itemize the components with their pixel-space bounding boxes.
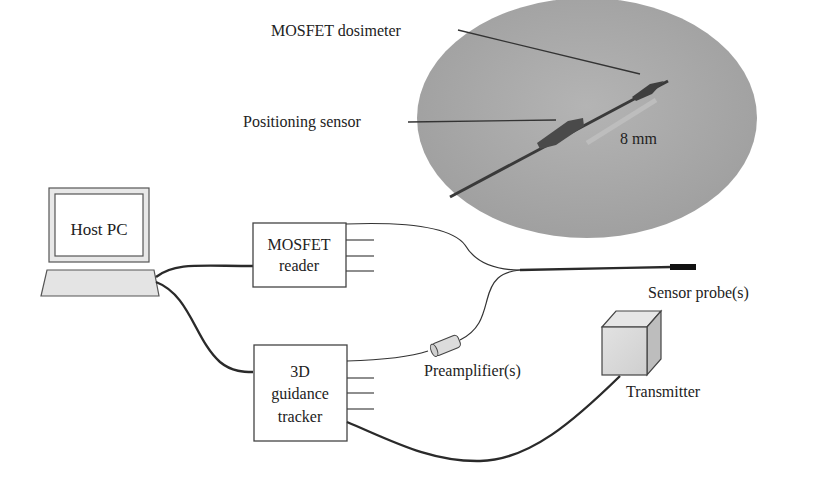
system-diagram: 8 mm MOSFET dosimeter Positioning sensor… bbox=[0, 0, 819, 482]
positioning-sensor-label: Positioning sensor bbox=[243, 113, 361, 131]
photo-ellipse bbox=[417, 0, 757, 238]
sensor-probe-tip bbox=[670, 264, 696, 270]
pc-to-reader-cable bbox=[156, 266, 253, 277]
reader-fiber bbox=[346, 223, 520, 270]
tracker-label-2: guidance bbox=[271, 385, 329, 403]
sensor-probe-cable bbox=[520, 267, 672, 270]
probe-photo: 8 mm bbox=[417, 0, 757, 238]
tracker-label-3: tracker bbox=[278, 408, 323, 425]
transmitter-label: Transmitter bbox=[626, 383, 701, 400]
mosfet-reader-box bbox=[253, 223, 346, 287]
tracker-fiber bbox=[347, 351, 428, 361]
mosfet-reader-label-1: MOSFET bbox=[267, 236, 330, 253]
host-pc: Host PC bbox=[41, 188, 159, 296]
mosfet-dosimeter-label: MOSFET dosimeter bbox=[271, 22, 402, 39]
transmitter-cube-icon bbox=[602, 327, 647, 375]
preamp-fiber bbox=[460, 270, 520, 340]
preamplifier-label: Preamplifier(s) bbox=[424, 362, 521, 380]
keyboard-icon bbox=[41, 270, 159, 296]
preamplifier bbox=[429, 334, 462, 357]
transmitter bbox=[602, 311, 661, 375]
sensor-probe-label: Sensor probe(s) bbox=[648, 284, 749, 302]
tracker-label-1: 3D bbox=[290, 363, 310, 380]
mosfet-reader: MOSFET reader bbox=[253, 223, 374, 287]
mosfet-reader-label-2: reader bbox=[279, 257, 320, 274]
pc-to-tracker-cable bbox=[156, 282, 253, 372]
tracker-to-transmitter-cable bbox=[347, 376, 620, 461]
host-pc-label: Host PC bbox=[70, 220, 127, 239]
scale-label: 8 mm bbox=[620, 130, 657, 147]
